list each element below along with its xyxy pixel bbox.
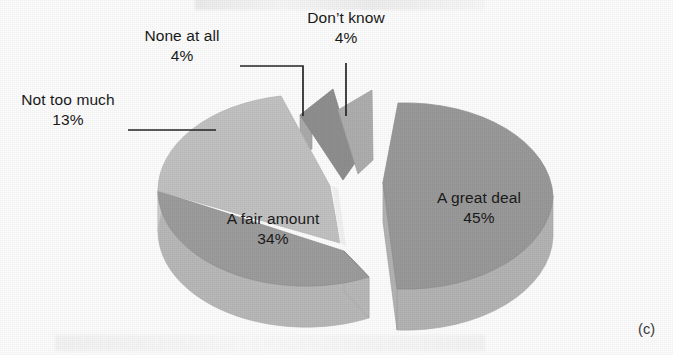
figure-caption: (c): [638, 321, 655, 337]
slice-label-not-too-much-name: Not too much: [21, 91, 114, 108]
slice-label-not-too-much-pct: 13%: [8, 110, 128, 130]
slice-label-a-great-deal-pct: 45%: [404, 208, 554, 228]
slice-label-a-great-deal-name: A great deal: [437, 189, 521, 206]
slice-label-dont-know-name: Don’t know: [307, 9, 385, 26]
pie-chart-graphic: [0, 0, 673, 355]
slice-label-a-fair-amount: A fair amount 34%: [189, 209, 357, 249]
slice-label-none-at-all-name: None at all: [144, 27, 219, 44]
slice-label-a-fair-amount-pct: 34%: [189, 229, 357, 249]
slice-label-a-great-deal: A great deal 45%: [404, 188, 554, 228]
pie-chart-figure: A great deal 45% A fair amount 34% Not t…: [0, 0, 673, 355]
slice-label-dont-know: Don’t know 4%: [290, 8, 402, 48]
slice-label-dont-know-pct: 4%: [290, 28, 402, 48]
slice-label-not-too-much: Not too much 13%: [8, 90, 128, 130]
slice-label-a-fair-amount-name: A fair amount: [227, 210, 320, 227]
slice-label-none-at-all: None at all 4%: [124, 26, 240, 66]
slice-label-none-at-all-pct: 4%: [124, 46, 240, 66]
